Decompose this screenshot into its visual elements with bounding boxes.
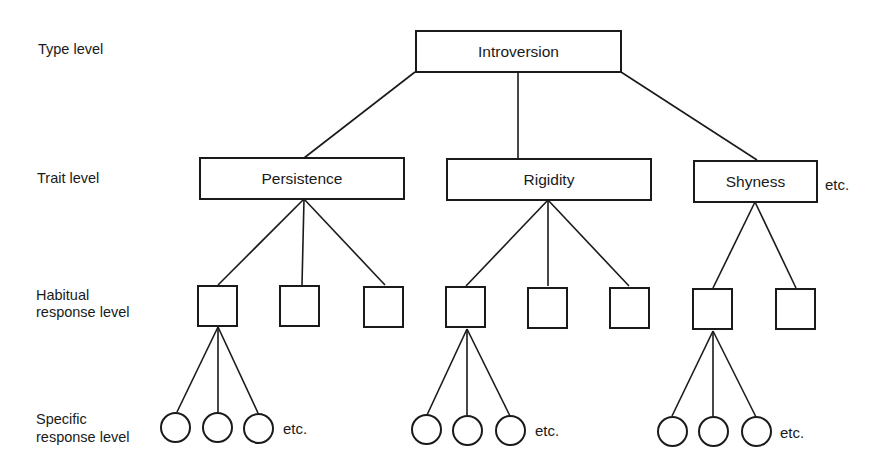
trait-label: Rigidity [524, 171, 575, 189]
specific-response-node [698, 416, 729, 447]
trait-etc-label: etc. [825, 176, 849, 193]
specific-response-node [741, 416, 772, 447]
habitual-level-label-line2: response level [36, 304, 130, 321]
specific-response-node [495, 415, 526, 446]
specific-response-node [657, 416, 688, 447]
specific-response-node [452, 415, 483, 446]
trait-node-persistence: Persistence [199, 157, 405, 200]
habitual-node [279, 285, 320, 327]
specific-response-node [243, 413, 274, 444]
habitual-node [692, 288, 733, 330]
habitual-node [197, 285, 238, 327]
type-node-label: Introversion [478, 43, 559, 61]
specific-level-label-line1: Specific [36, 411, 87, 428]
trait-label: Persistence [262, 170, 343, 188]
habitual-node [527, 287, 568, 329]
type-level-label: Type level [38, 41, 103, 58]
specific-response-node [202, 412, 233, 443]
habitual-node [445, 286, 486, 328]
trait-node-rigidity: Rigidity [446, 158, 652, 201]
habitual-level-label-line1: Habitual [36, 287, 89, 304]
specific-level-label-line2: response level [36, 429, 130, 446]
specific-etc-label: etc. [283, 420, 307, 437]
habitual-node [775, 288, 816, 330]
trait-node-shyness: Shyness [693, 160, 818, 203]
specific-etc-label: etc. [535, 422, 559, 439]
specific-response-node [160, 412, 191, 443]
habitual-node [609, 287, 650, 329]
trait-label: Shyness [726, 173, 785, 191]
specific-response-node [411, 414, 442, 445]
habitual-node [363, 286, 404, 328]
specific-etc-label: etc. [780, 424, 804, 441]
type-node-introversion: Introversion [415, 30, 622, 73]
trait-level-label: Trait level [37, 170, 99, 187]
